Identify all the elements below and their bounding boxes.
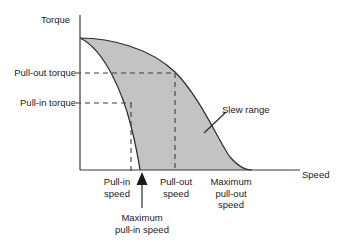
maximum-pull-out-speed-label-line3: speed [200,199,262,211]
pull-in-torque-tick-label: Pull-in torque [2,97,76,109]
pull-in-speed-tick-label: Pull-in speed [96,176,138,199]
pull-out-speed-tick-label-line1: Pull-out [152,176,200,188]
plot-canvas [0,0,339,246]
maximum-pull-in-speed-label-line1: Maximum [100,212,184,224]
pull-out-torque-tick-label: Pull-out torque [2,67,76,79]
max-pull-in-speed-arrow-head [137,172,148,185]
pull-in-speed-tick-label-line1: Pull-in [96,176,138,188]
pull-out-speed-tick-label-line2: speed [152,188,200,200]
maximum-pull-out-speed-tick-label: Maximum pull-out speed [200,176,262,211]
torque-speed-diagram: Torque Speed Pull-out torque Pull-in tor… [0,0,339,246]
maximum-pull-in-speed-annotation-label: Maximum pull-in speed [100,212,184,235]
x-axis-label: Speed [302,169,329,181]
maximum-pull-out-speed-label-line1: Maximum [200,176,262,188]
maximum-pull-out-speed-label-line2: pull-out [200,188,262,200]
y-axis-label: Torque [41,14,70,26]
slew-range-annotation-label: Slew range [222,104,270,116]
pull-in-speed-tick-label-line2: speed [96,188,138,200]
pull-out-speed-tick-label: Pull-out speed [152,176,200,199]
maximum-pull-in-speed-label-line2: pull-in speed [100,224,184,236]
